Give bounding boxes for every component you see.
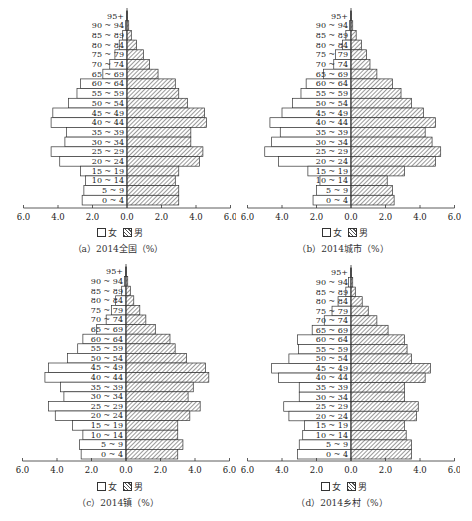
male-bar bbox=[127, 108, 205, 118]
legend-male-label: 男 bbox=[359, 228, 368, 238]
age-group-label: 80 ~ 84 bbox=[316, 41, 348, 50]
legend: 女 男 bbox=[224, 480, 460, 493]
age-group-label: 5 ~ 9 bbox=[102, 186, 124, 195]
x-tick-label: 6.0 bbox=[241, 212, 255, 222]
age-group-label: 65 ~ 69 bbox=[92, 70, 124, 79]
age-group-label: 65 ~ 69 bbox=[316, 70, 348, 79]
male-bar bbox=[127, 60, 149, 70]
male-bar bbox=[126, 363, 205, 373]
male-bar bbox=[351, 40, 361, 50]
x-tick-label: 6.0 bbox=[448, 212, 461, 222]
legend: 女 男 bbox=[225, 226, 461, 239]
x-tick-label: 2.0 bbox=[310, 465, 324, 475]
male-bar bbox=[127, 186, 179, 196]
pyramid-panel-c: 95+90 ~ 9485 ~ 8980 ~ 8475 ~ 7970 ~ 7465… bbox=[0, 258, 236, 518]
male-bar bbox=[127, 147, 203, 157]
age-group-label: 60 ~ 64 bbox=[316, 79, 348, 88]
chart-caption: （c）2014镇（%） bbox=[0, 496, 236, 509]
age-group-label: 85 ~ 89 bbox=[92, 31, 124, 40]
male-bar bbox=[126, 392, 188, 402]
male-swatch-icon bbox=[123, 482, 132, 491]
male-bar bbox=[126, 334, 170, 344]
age-group-label: 10 ~ 14 bbox=[91, 431, 123, 440]
age-group-label: 0 ~ 4 bbox=[326, 450, 348, 459]
x-tick-label: 4.0 bbox=[51, 212, 65, 222]
female-swatch-icon bbox=[322, 228, 331, 237]
male-bar bbox=[126, 440, 183, 450]
male-bar bbox=[351, 186, 392, 196]
male-bar bbox=[351, 50, 367, 60]
age-group-label: 65 ~ 69 bbox=[316, 326, 348, 335]
male-bar bbox=[351, 176, 387, 186]
pyramid-chart-d: 95+90 ~ 9485 ~ 8980 ~ 8475 ~ 7970 ~ 7465… bbox=[224, 262, 460, 487]
male-bar bbox=[126, 296, 134, 306]
age-group-label: 95+ bbox=[331, 268, 348, 277]
legend-male-label: 男 bbox=[358, 482, 367, 492]
age-group-label: 60 ~ 64 bbox=[316, 335, 348, 344]
male-bar bbox=[351, 108, 423, 118]
age-group-label: 5 ~ 9 bbox=[326, 440, 348, 449]
age-group-label: 40 ~ 44 bbox=[92, 118, 124, 127]
legend-female-label: 女 bbox=[108, 228, 117, 238]
male-bar bbox=[126, 411, 190, 421]
age-group-label: 5 ~ 9 bbox=[326, 186, 348, 195]
male-bar bbox=[351, 127, 425, 137]
x-tick-label: 0.0 bbox=[119, 465, 133, 475]
male-bar bbox=[126, 430, 178, 440]
age-group-label: 95+ bbox=[107, 12, 124, 21]
x-tick-label: 6.0 bbox=[16, 465, 30, 475]
age-group-label: 55 ~ 59 bbox=[316, 345, 348, 354]
age-group-label: 45 ~ 49 bbox=[92, 109, 124, 118]
male-bar bbox=[351, 306, 368, 316]
male-bar bbox=[351, 364, 430, 374]
female-swatch-icon bbox=[97, 228, 106, 237]
age-group-label: 85 ~ 89 bbox=[316, 288, 348, 297]
age-group-label: 60 ~ 64 bbox=[91, 335, 123, 344]
male-bar bbox=[351, 147, 441, 157]
age-group-label: 10 ~ 14 bbox=[316, 431, 348, 440]
x-tick-label: 6.0 bbox=[241, 465, 255, 475]
x-tick-label: 2.0 bbox=[379, 212, 393, 222]
age-group-label: 25 ~ 29 bbox=[316, 147, 348, 156]
x-tick-label: 0.0 bbox=[344, 465, 358, 475]
pyramid-panel-a: 95+90 ~ 9485 ~ 8980 ~ 8475 ~ 7970 ~ 7465… bbox=[0, 0, 236, 260]
age-group-label: 55 ~ 59 bbox=[92, 89, 124, 98]
legend-male-label: 男 bbox=[134, 482, 143, 492]
age-group-label: 40 ~ 44 bbox=[316, 118, 348, 127]
male-bar bbox=[126, 373, 209, 383]
age-group-label: 15 ~ 19 bbox=[92, 167, 124, 176]
male-bar bbox=[127, 118, 206, 128]
age-group-label: 20 ~ 24 bbox=[316, 157, 348, 166]
male-bar bbox=[127, 176, 175, 186]
male-swatch-icon bbox=[123, 228, 132, 237]
x-tick-label: 4.0 bbox=[50, 465, 64, 475]
legend-female-label: 女 bbox=[332, 482, 341, 492]
age-group-label: 70 ~ 74 bbox=[316, 60, 348, 69]
male-bar bbox=[127, 166, 179, 176]
male-bar bbox=[351, 137, 432, 147]
age-group-label: 25 ~ 29 bbox=[316, 402, 348, 411]
male-bar bbox=[351, 402, 418, 412]
age-group-label: 80 ~ 84 bbox=[92, 41, 124, 50]
male-bar bbox=[127, 195, 179, 205]
male-bar bbox=[127, 30, 131, 40]
male-bar bbox=[127, 40, 136, 50]
age-group-label: 65 ~ 69 bbox=[91, 325, 123, 334]
pyramid-chart-c: 95+90 ~ 9485 ~ 8980 ~ 8475 ~ 7970 ~ 7465… bbox=[0, 258, 236, 483]
age-group-label: 90 ~ 94 bbox=[316, 21, 348, 30]
male-bar bbox=[351, 430, 406, 440]
male-bar bbox=[351, 89, 401, 99]
male-bar bbox=[127, 98, 187, 108]
male-bar bbox=[351, 166, 404, 176]
female-swatch-icon bbox=[321, 482, 330, 491]
male-bar bbox=[351, 344, 407, 354]
male-bar bbox=[126, 286, 130, 296]
male-bar bbox=[351, 287, 355, 297]
male-bar bbox=[351, 98, 411, 108]
male-bar bbox=[127, 157, 199, 167]
age-group-label: 85 ~ 89 bbox=[91, 287, 123, 296]
age-group-label: 5 ~ 9 bbox=[101, 440, 123, 449]
age-group-label: 10 ~ 14 bbox=[316, 176, 348, 185]
male-bar bbox=[351, 373, 425, 383]
male-bar bbox=[126, 401, 200, 411]
